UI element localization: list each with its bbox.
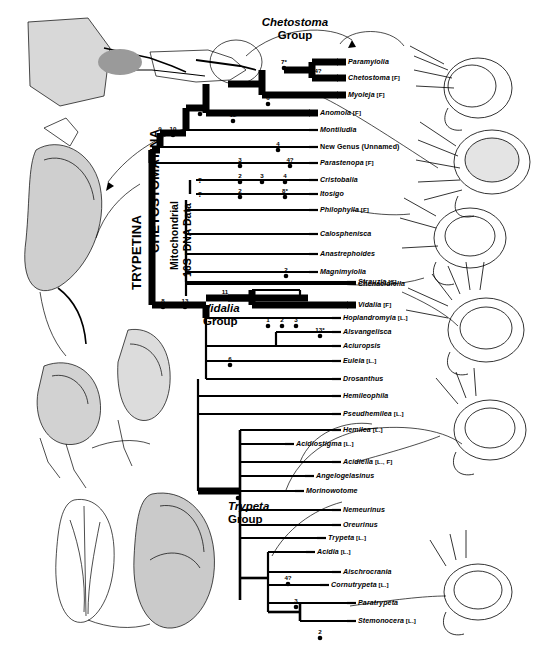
taxon-region-code: [L.]	[342, 440, 354, 447]
taxon-name: Drosanthus	[343, 375, 383, 383]
taxon-name: Stemonocera	[358, 617, 404, 625]
node-support-number: 2	[238, 187, 241, 194]
taxon-region-code: [L.]	[365, 357, 377, 364]
taxon-name: Euleia	[343, 357, 365, 365]
taxon-label: Paratrypeta	[358, 599, 398, 607]
node-support-number: 10	[170, 125, 177, 132]
cladogram-tree	[0, 0, 552, 651]
taxon-region-code: [L.]	[339, 548, 351, 555]
taxon-name: Anastrephoides	[320, 250, 375, 258]
taxon-region-code: [F]	[375, 91, 385, 98]
node-support-number: 4	[283, 172, 286, 179]
clade-label-trypetina: TRYPETINA	[129, 215, 144, 290]
taxon-name: Oreurinus	[343, 521, 378, 529]
group-label-trypeta-genus: Trypeta	[228, 500, 269, 513]
taxon-label: Cristobalia	[320, 176, 358, 184]
taxon-label: Morinowotome	[306, 487, 358, 495]
taxon-label: Acidia [L.]	[317, 548, 351, 556]
taxon-label: Alsvangelisca	[343, 328, 392, 336]
taxon-label: Magnimyiolia	[320, 268, 366, 276]
taxon-region-code: [L.]	[354, 534, 366, 541]
node-support-number: 13*	[315, 326, 324, 333]
node-support-number: 4?	[314, 67, 321, 74]
taxon-label: Anastrephoides	[320, 250, 375, 258]
taxon-name: Morinowotome	[306, 487, 358, 495]
node-support-number: 6	[228, 355, 231, 362]
taxon-region-code: [L.]	[392, 410, 404, 417]
taxon-name: Cristobalia	[320, 176, 358, 184]
node-support-number: 7*	[281, 58, 287, 65]
node-support-number: 2	[318, 628, 321, 635]
taxon-label: New Genus (Unnamed)	[320, 143, 400, 151]
taxon-label: Anomoia [F]	[320, 109, 361, 117]
taxon-name: Montiludia	[320, 126, 356, 134]
group-label-chetostoma-genus: Chetostoma	[262, 16, 328, 29]
node-support-number: 8*	[282, 187, 288, 194]
node-support-number: 9	[158, 125, 161, 132]
taxon-name: Chetostoma	[348, 74, 390, 82]
taxon-region-code: [F]	[351, 109, 361, 116]
taxon-label: Acidiostigma [L.]	[296, 440, 354, 448]
taxon-name: Trypeta	[328, 534, 354, 542]
taxon-region-code: [L.]	[396, 314, 408, 321]
taxon-label: Vidalia [F]	[358, 301, 391, 309]
taxon-name: Hemileophila	[343, 392, 388, 400]
taxon-label: Hemileophila	[343, 392, 388, 400]
node-support-number: 4?	[284, 574, 291, 581]
taxon-label: Cornutrypeta [L.]	[331, 581, 389, 589]
taxon-name: Acidiella	[343, 458, 373, 466]
node-support-number: 6	[266, 94, 269, 101]
taxon-region-code: [F]	[381, 301, 391, 308]
taxon-name: Magnimyiolia	[320, 268, 366, 276]
figure-cladogram: Chetostoma Group Vidalia Group Trypeta G…	[0, 0, 552, 651]
taxon-name: Hoplandromyia	[343, 314, 396, 322]
node-support-number: 11	[222, 288, 229, 295]
taxon-label: Aciuropsis	[343, 342, 381, 350]
taxon-label: Chenacidiella	[358, 280, 405, 288]
taxon-label: Myoleja [F]	[348, 91, 385, 99]
group-label-trypeta-word: Group	[228, 513, 269, 526]
taxon-label: Nemeurinus	[343, 506, 385, 514]
group-label-trypeta: Trypeta Group	[228, 500, 269, 525]
taxon-label: Itosigo	[320, 190, 344, 198]
taxon-label: Hoplandromyia [L.]	[343, 314, 408, 322]
taxon-label: Philophylla [F]	[320, 206, 369, 214]
group-label-chetostoma-word: Group	[262, 29, 328, 42]
node-support-number: 8	[161, 297, 164, 304]
taxon-label: Pseudhemilea [L.]	[343, 410, 404, 418]
taxon-label: Calosphenisca	[320, 230, 371, 238]
taxon-region-code: [L.]	[404, 617, 416, 624]
taxon-region-code: [L.]	[371, 426, 383, 433]
unknown-support-marker: ?	[198, 190, 203, 199]
taxon-label: Euleia [L.]	[343, 357, 376, 365]
group-label-chetostoma: Chetostoma Group	[262, 16, 328, 41]
taxon-name: Anomoia	[320, 109, 351, 117]
taxon-name: Itosigo	[320, 190, 344, 198]
taxon-name: Angelogelasinus	[316, 472, 374, 480]
node-support-number: 7	[198, 104, 201, 111]
taxon-label: Chetostoma [F]	[348, 74, 400, 82]
taxon-label: Aischrocrania	[343, 568, 392, 576]
unknown-support-marker: ?	[198, 176, 203, 185]
node-support-number: 12	[230, 111, 237, 118]
group-label-vidalia: Vidalia Group	[203, 302, 240, 327]
taxon-label: Drosanthus	[343, 375, 383, 383]
taxon-name: Pseudhemilea	[343, 410, 392, 418]
taxon-label: Montiludia	[320, 126, 356, 134]
group-label-vidalia-genus: Vidalia	[203, 302, 240, 315]
node-support-number: 3	[294, 316, 297, 323]
taxon-name: Myoleja	[348, 91, 375, 99]
node-support-number: 2	[284, 266, 287, 273]
data-source-label-line2: 16S rDNA Data	[181, 203, 193, 277]
taxon-name: Cornutrypeta	[331, 581, 377, 589]
taxon-region-code: [F]	[390, 74, 400, 81]
taxon-region-code: [L.]	[377, 581, 389, 588]
taxon-name: Paramyiolia	[348, 58, 389, 66]
node-support-number: 4	[276, 140, 279, 147]
taxon-name: Alsvangelisca	[343, 328, 392, 336]
taxon-name: Parastenopa	[320, 159, 364, 167]
taxon-name: Nemeurinus	[343, 506, 385, 514]
taxon-name: Aciuropsis	[343, 342, 381, 350]
taxon-name: Aischrocrania	[343, 568, 392, 576]
taxon-region-code: [F]	[364, 159, 374, 166]
